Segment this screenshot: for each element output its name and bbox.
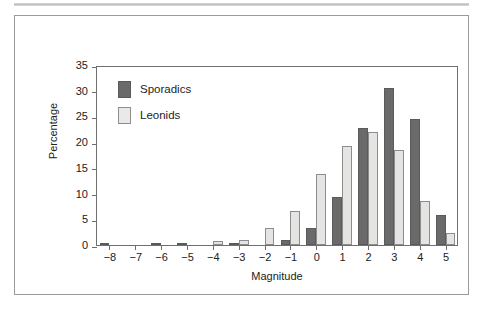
x-tick-label: −4 — [207, 251, 220, 263]
x-tick-label: −1 — [285, 251, 298, 263]
plot-area: 05101520253035 −8−7−6−5−4−3−2−1012345 Sp… — [96, 66, 458, 246]
figure-root: Percentage Magnitude 05101520253035 −8−7… — [0, 0, 483, 310]
x-axis-title: Magnitude — [251, 270, 302, 282]
bar-leonids-mag-0 — [316, 174, 326, 245]
legend-item-leonids: Leonids — [118, 105, 191, 125]
chart-legend: Sporadics Leonids — [118, 79, 191, 131]
x-tick-mark — [135, 245, 136, 250]
bar-sporadics-mag-3 — [384, 88, 394, 245]
x-tick-label: 4 — [417, 251, 423, 263]
x-tick-label: −2 — [259, 251, 272, 263]
legend-label-leonids: Leonids — [140, 109, 180, 121]
bar-sporadics-mag-0 — [306, 228, 316, 245]
x-tick-mark — [161, 245, 162, 250]
x-tick-label: −6 — [155, 251, 168, 263]
legend-swatch-leonids-icon — [118, 107, 131, 124]
y-tick-label: 5 — [82, 213, 88, 225]
y-tick-label: 20 — [76, 136, 88, 148]
bar-sporadics-mag--6 — [151, 243, 161, 245]
bar-sporadics-mag--3 — [229, 243, 239, 245]
x-tick-label: −8 — [104, 251, 117, 263]
bar-leonids-mag-2 — [368, 132, 378, 245]
x-tick-label: 0 — [314, 251, 320, 263]
bar-leonids-mag-4 — [420, 201, 430, 245]
x-tick-mark — [213, 245, 214, 250]
x-tick-label: −7 — [130, 251, 143, 263]
x-tick-mark — [420, 245, 421, 250]
x-tick-mark — [109, 245, 110, 250]
y-tick-label: 15 — [76, 162, 88, 174]
bar-sporadics-mag-1 — [332, 197, 342, 245]
bar-leonids-mag-5 — [446, 233, 456, 245]
bar-sporadics-mag-2 — [358, 128, 368, 245]
x-tick-label: −3 — [233, 251, 246, 263]
y-tick-label: 30 — [76, 85, 88, 97]
bar-leonids-mag-3 — [394, 150, 404, 245]
x-tick-label: 5 — [443, 251, 449, 263]
legend-label-sporadics: Sporadics — [140, 83, 191, 95]
x-tick-label: 2 — [365, 251, 371, 263]
bar-leonids-mag--2 — [265, 228, 275, 245]
bar-sporadics-mag--8 — [100, 243, 110, 245]
bar-leonids-mag-1 — [342, 146, 352, 245]
bar-leonids-mag--4 — [213, 241, 223, 245]
y-tick-label: 0 — [82, 239, 88, 251]
x-tick-mark — [290, 245, 291, 250]
legend-swatch-sporadics-icon — [118, 81, 131, 98]
x-tick-mark — [316, 245, 317, 250]
bar-sporadics-mag-5 — [436, 215, 446, 245]
y-axis-title: Percentage — [47, 103, 59, 159]
x-tick-mark — [394, 245, 395, 250]
bar-leonids-mag--3 — [239, 240, 249, 245]
x-tick-mark — [368, 245, 369, 250]
legend-item-sporadics: Sporadics — [118, 79, 191, 99]
x-tick-label: 1 — [340, 251, 346, 263]
x-tick-mark — [342, 245, 343, 250]
bar-leonids-mag--1 — [290, 211, 300, 245]
x-tick-mark — [446, 245, 447, 250]
bar-sporadics-mag--1 — [281, 240, 291, 245]
top-divider-rule — [14, 3, 469, 6]
y-tick-label: 10 — [76, 188, 88, 200]
y-tick-label: 35 — [76, 59, 88, 71]
bar-sporadics-mag-4 — [410, 119, 420, 245]
x-tick-mark — [239, 245, 240, 250]
x-tick-mark — [187, 245, 188, 250]
x-tick-label: −5 — [181, 251, 194, 263]
x-tick-mark — [265, 245, 266, 250]
bar-sporadics-mag--5 — [177, 243, 187, 245]
x-tick-label: 3 — [391, 251, 397, 263]
y-tick-mark — [92, 247, 97, 248]
figure-border-box: Percentage Magnitude 05101520253035 −8−7… — [14, 15, 469, 295]
y-tick-label: 25 — [76, 110, 88, 122]
